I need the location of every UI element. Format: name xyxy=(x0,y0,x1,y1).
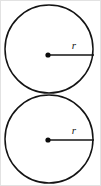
bottom-circle-center-dot xyxy=(45,137,50,142)
top-circle-outline xyxy=(5,5,93,93)
top-circle-center-dot xyxy=(45,52,50,57)
bottom-radius-label: r xyxy=(72,124,77,136)
two-circles-diagram: r r xyxy=(0,0,101,186)
bottom-circle-group: r xyxy=(5,95,94,183)
top-circle-group: r xyxy=(5,5,94,93)
top-radius-label: r xyxy=(72,39,77,51)
figure-canvas: r r xyxy=(0,0,101,186)
